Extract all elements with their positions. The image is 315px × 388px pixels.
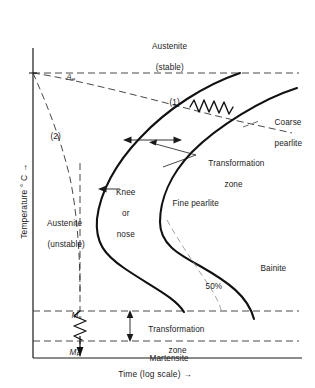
- fine-pearlite-label: Fine pearlite: [163, 188, 219, 220]
- austenite-unstable-line1: Austenite: [47, 219, 82, 228]
- austenite-stable-line1: Austenite: [152, 42, 187, 51]
- mf-label-subscript: F: [76, 350, 80, 357]
- ttt-diagram-figure: Austenite (stable) Ae (1) (2) Coarse pea…: [0, 0, 315, 388]
- austenite-stable-line2: (stable): [156, 63, 184, 72]
- pearlite-zigzag-marker: [190, 100, 233, 114]
- austenite-unstable-label: Austenite (unstable): [38, 208, 85, 261]
- upper-zone-arrow-head-right: [174, 137, 183, 144]
- martensite-text: Martensite: [150, 354, 189, 363]
- coarse-pearlite-line2: pearlite: [275, 139, 303, 148]
- coarse-pearlite-line1: Coarse: [275, 118, 302, 127]
- bainite-text: Bainite: [261, 264, 287, 273]
- x-axis-title: Time (log scale) →: [30, 369, 280, 380]
- austenite-unstable-line2: (unstable): [48, 240, 85, 249]
- austenite-stable-label: Austenite (stable): [125, 31, 205, 84]
- ms-label-subscript: s: [78, 313, 81, 320]
- mf-label: MF: [60, 337, 80, 369]
- upper-transformation-zone-line1: Transformation: [208, 159, 264, 168]
- cooling-curve-1-label: (1): [160, 87, 180, 119]
- y-axis-title: Temperature ° C →: [19, 131, 30, 271]
- upper-zone-leader-lines: [149, 139, 196, 167]
- bainite-label: Bainite: [251, 253, 286, 285]
- fine-pearlite-text: Fine pearlite: [173, 199, 219, 208]
- cooling-curve-1-text: (1): [170, 98, 180, 107]
- coarse-pearlite-label: Coarse pearlite: [265, 107, 302, 160]
- ms-label: Ms: [62, 300, 82, 332]
- knee-line1: Knee: [116, 188, 136, 197]
- fifty-percent-label: 50%: [196, 271, 222, 303]
- lower-transformation-zone-line1: Transformation: [148, 325, 204, 334]
- fifty-percent-text: 50%: [206, 282, 223, 291]
- cooling-curve-2-text: (2): [51, 132, 61, 141]
- ae-label: Ae: [57, 62, 75, 94]
- lower-transformation-zone-arrow: [127, 310, 134, 342]
- knee-label: Knee or nose: [104, 177, 138, 251]
- ae-label-text: A: [66, 73, 72, 82]
- ae-label-subscript: e: [72, 75, 76, 82]
- upper-zone-leader-a: [152, 143, 196, 155]
- knee-line3: nose: [117, 230, 135, 239]
- knee-line2: or: [122, 209, 129, 218]
- cooling-curve-2-label: (2): [41, 121, 61, 153]
- upper-zone-arrow-head-left: [123, 137, 132, 144]
